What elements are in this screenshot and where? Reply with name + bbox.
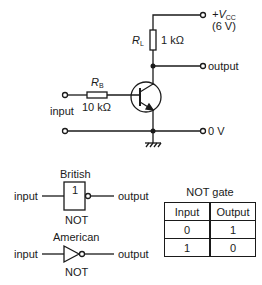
junction-ground: [151, 129, 156, 134]
rb-label: RB: [91, 76, 104, 89]
cell-output: 0: [210, 239, 256, 257]
american-input-label: input: [14, 248, 38, 260]
header-output: Output: [210, 203, 256, 221]
ground-icon: [145, 143, 161, 147]
truth-table: Input Output 0 1 1 0: [164, 202, 256, 257]
american-not-gate: [64, 246, 79, 262]
cell-input: 0: [165, 221, 211, 239]
truth-table-caption: NOT gate: [164, 186, 256, 198]
american-output-label: output: [118, 248, 149, 260]
junction-output: [151, 64, 156, 69]
vcc-value: (6 V): [212, 20, 236, 32]
british-title: British: [60, 168, 91, 180]
rl-label: RL: [132, 34, 144, 47]
table-row: 1 0: [165, 239, 256, 257]
british-inverter-bubble: [86, 194, 91, 199]
rl-value: 1 kΩ: [161, 34, 184, 46]
american-inverter-bubble: [80, 252, 85, 257]
input-terminal: [63, 93, 68, 98]
table-row: 0 1: [165, 221, 256, 239]
emitter-arrow: [146, 104, 153, 110]
cell-input: 1: [165, 239, 211, 257]
header-input: Input: [165, 203, 211, 221]
rl-resistor: [150, 30, 156, 50]
common-terminal-left: [63, 129, 68, 134]
rb-resistor: [87, 92, 107, 98]
ground-terminal: [201, 129, 206, 134]
ground-label: 0 V: [208, 125, 225, 137]
input-label: input: [50, 105, 74, 117]
truth-table-header: Input Output: [165, 203, 256, 221]
british-name: NOT: [65, 214, 89, 226]
vcc-wire: [153, 15, 200, 30]
british-symbol-text: 1: [72, 184, 78, 196]
american-name: NOT: [65, 266, 89, 278]
rb-value: 10 kΩ: [82, 101, 111, 113]
british-output-label: output: [118, 190, 149, 202]
output-label: output: [208, 60, 239, 72]
output-terminal: [201, 64, 206, 69]
british-input-label: input: [14, 190, 38, 202]
vcc-terminal: [201, 13, 206, 18]
transistor-body: [131, 82, 161, 112]
american-title: American: [53, 231, 99, 243]
cell-output: 1: [210, 221, 256, 239]
